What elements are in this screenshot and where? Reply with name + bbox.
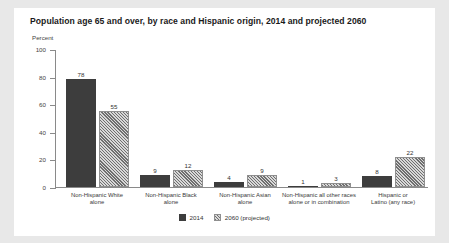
x-axis-line bbox=[55, 187, 428, 188]
chart-legend: 2014 2060 (projected) bbox=[14, 214, 435, 221]
legend-label-2014: 2014 bbox=[190, 214, 204, 221]
legend-item-2060[interactable]: 2060 (projected) bbox=[214, 214, 270, 221]
bar-group: 4 9 bbox=[208, 49, 283, 187]
chart-title: Population age 65 and over, by race and … bbox=[30, 16, 366, 26]
bar-value-2014: 78 bbox=[66, 71, 96, 78]
y-tick-100 bbox=[50, 50, 56, 51]
bar-group: 78 55 bbox=[60, 49, 135, 187]
bar-group: 9 12 bbox=[134, 49, 209, 187]
y-tick-label-60: 60 bbox=[26, 102, 46, 109]
bar-value-2060: 9 bbox=[247, 167, 277, 174]
y-tick-label-80: 80 bbox=[26, 74, 46, 81]
y-tick-40 bbox=[50, 133, 56, 134]
bar-2060[interactable] bbox=[99, 111, 129, 187]
plot-area: 100 80 60 40 20 0 78 55 Non-Hispanic Whi… bbox=[28, 42, 428, 188]
category-label: Hispanic or Latino (any race) bbox=[345, 192, 441, 207]
y-tick-label-100: 100 bbox=[26, 46, 46, 53]
bar-2014[interactable] bbox=[214, 182, 244, 188]
bar-value-2014: 4 bbox=[214, 174, 244, 181]
bar-2014[interactable] bbox=[362, 176, 392, 187]
y-tick-label-0: 0 bbox=[26, 184, 46, 191]
bar-group: 8 22 bbox=[356, 49, 431, 187]
bar-value-2060: 22 bbox=[395, 149, 425, 156]
bar-2060[interactable] bbox=[173, 170, 203, 187]
bar-group: 1 3 bbox=[282, 49, 357, 187]
bar-value-2014: 9 bbox=[140, 167, 170, 174]
y-tick-label-20: 20 bbox=[26, 157, 46, 164]
legend-swatch-hatched-icon bbox=[214, 214, 221, 221]
bar-value-2060: 55 bbox=[99, 103, 129, 110]
category-label-line2: Latino (any race) bbox=[345, 199, 441, 206]
bar-2014[interactable] bbox=[140, 175, 170, 187]
bar-2060[interactable] bbox=[395, 157, 425, 187]
legend-swatch-solid-icon bbox=[179, 214, 186, 221]
bar-value-2060: 3 bbox=[321, 175, 351, 182]
legend-label-2060: 2060 (projected) bbox=[225, 214, 270, 221]
bar-2060[interactable] bbox=[321, 183, 351, 187]
bar-value-2014: 8 bbox=[362, 168, 392, 175]
bar-2014[interactable] bbox=[66, 79, 96, 187]
y-tick-label-40: 40 bbox=[26, 129, 46, 136]
y-tick-80 bbox=[50, 78, 56, 79]
bar-value-2014: 1 bbox=[288, 178, 318, 185]
y-axis-line bbox=[55, 50, 56, 188]
y-axis-label: Percent bbox=[32, 34, 53, 41]
bar-2060[interactable] bbox=[247, 175, 277, 187]
y-tick-60 bbox=[50, 105, 56, 106]
bar-2014[interactable] bbox=[288, 186, 318, 187]
bar-value-2060: 12 bbox=[173, 162, 203, 169]
chart-figure: Population age 65 and over, by race and … bbox=[14, 8, 435, 236]
y-tick-20 bbox=[50, 160, 56, 161]
y-tick-0 bbox=[50, 188, 56, 189]
category-label-line1: Hispanic or bbox=[345, 192, 441, 199]
legend-item-2014[interactable]: 2014 bbox=[179, 214, 203, 221]
